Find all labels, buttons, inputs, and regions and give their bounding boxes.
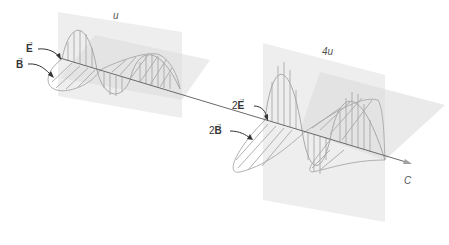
left-energy-label: u (113, 11, 119, 21)
right-energy-label: 4u (322, 47, 333, 57)
b-pointer-arrowhead-icon (48, 71, 54, 78)
electric-field-label: E (26, 44, 33, 54)
e-pointer-arrow (38, 49, 60, 58)
doubled-electric-field-label: 2E (232, 101, 244, 111)
speed-of-light-label: C (404, 176, 411, 186)
b-pointer-arrow (28, 64, 52, 76)
doubled-magnetic-field-label: 2B (209, 126, 222, 136)
magnetic-field-label: B (16, 60, 23, 70)
axis-arrowhead-icon (403, 159, 412, 164)
2b-pointer-arrow (230, 131, 250, 138)
em-wave-diagram (0, 0, 449, 245)
